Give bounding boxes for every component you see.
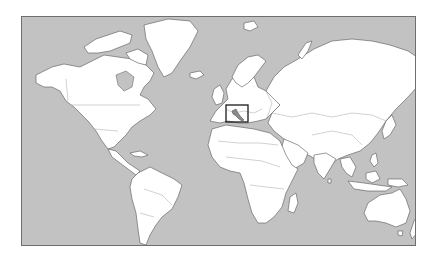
landmass-scandinavia xyxy=(232,55,266,87)
landmass-sri-lanka xyxy=(328,179,331,183)
landmass-borneo xyxy=(366,171,380,183)
landmass-north-america xyxy=(36,55,156,149)
landmass-arctic-islands xyxy=(84,31,132,53)
landmass-new-guinea xyxy=(388,179,408,187)
landmass-southeast-asia xyxy=(340,157,356,177)
landmass-madagascar xyxy=(288,193,298,213)
world-map-svg xyxy=(22,17,416,246)
landmass-indonesia xyxy=(348,181,392,191)
landmass-new-zealand xyxy=(410,217,416,239)
landmass-caribbean xyxy=(130,151,148,157)
landmass-british-isles xyxy=(212,85,224,105)
landmass-greenland xyxy=(144,19,198,77)
landmass-philippines xyxy=(370,153,378,167)
world-map xyxy=(21,16,416,246)
landmass-iceland xyxy=(190,71,204,79)
landmass-australia xyxy=(364,189,410,227)
landmass-south-america xyxy=(130,167,182,245)
landmass-svalbard xyxy=(244,21,258,31)
landmass-tasmania xyxy=(398,231,403,236)
landmass-india xyxy=(314,153,336,179)
